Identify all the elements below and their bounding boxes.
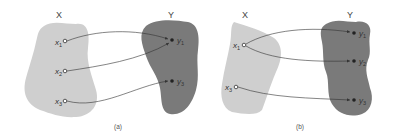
caption-a: (a): [114, 123, 122, 131]
panel-b: X Y x1 x3 y1 y2 y3 (b): [221, 10, 372, 131]
set-x-blob: [221, 22, 281, 114]
set-y-label: Y: [347, 10, 353, 20]
set-x-label: X: [56, 10, 62, 20]
mapping-diagram: X Y x1 x2 x3 y1 y3 (a): [0, 0, 393, 138]
caption-b: (b): [296, 123, 304, 131]
panel-a: X Y x1 x2 x3 y1 y3 (a): [25, 10, 199, 131]
set-x-label: X: [242, 10, 248, 20]
set-y-label: Y: [168, 10, 174, 20]
